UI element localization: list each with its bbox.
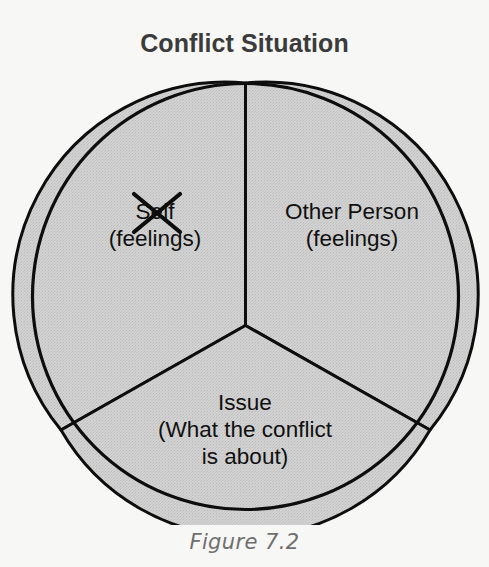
figure-page: Conflict Situation [0,0,489,567]
figure-caption: Figure 7.2 [0,530,489,554]
pie-chart-svg [0,0,489,525]
pie-diagram: Self (feelings) Other Person (feelings) … [0,0,489,525]
